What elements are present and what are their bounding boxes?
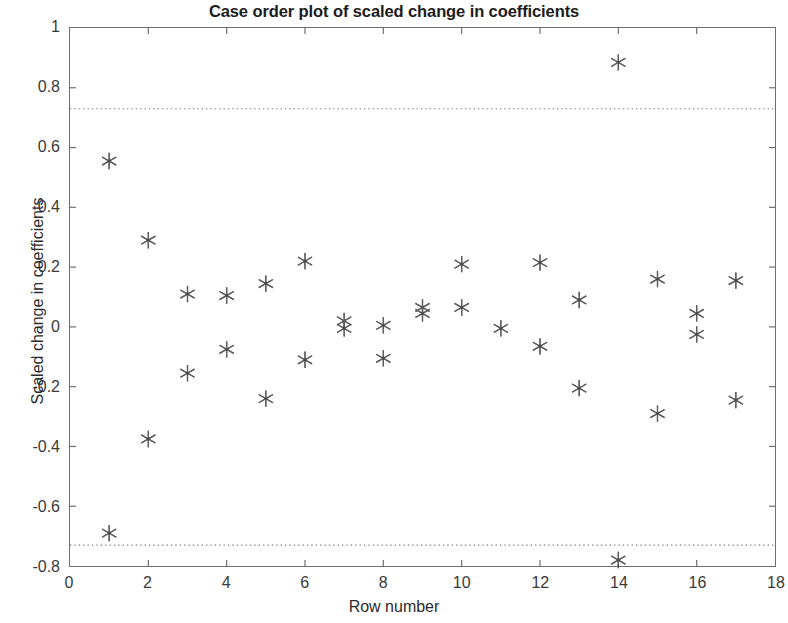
marker-center xyxy=(539,261,542,264)
marker-center xyxy=(734,279,737,282)
marker-center xyxy=(225,294,228,297)
data-point xyxy=(572,380,586,396)
marker-center xyxy=(147,437,150,440)
x-tick-label: 18 xyxy=(767,574,785,592)
x-axis-label: Row number xyxy=(0,598,788,616)
data-point xyxy=(376,350,390,366)
data-point xyxy=(650,405,664,421)
marker-center xyxy=(460,263,463,266)
data-point xyxy=(533,254,547,270)
data-point xyxy=(141,431,155,447)
data-point xyxy=(141,232,155,248)
data-point xyxy=(298,352,312,368)
y-axis-label: Scaled change in coefficients xyxy=(29,31,47,571)
page-title: Case order plot of scaled change in coef… xyxy=(0,2,788,21)
x-tick-label: 4 xyxy=(222,574,231,592)
x-tick-label: 12 xyxy=(531,574,549,592)
marker-center xyxy=(578,298,581,301)
marker-center xyxy=(147,239,150,242)
data-point xyxy=(455,256,469,272)
marker-center xyxy=(656,412,659,415)
marker-center xyxy=(421,312,424,315)
x-axis-tick-labels: 024681012141618 xyxy=(0,574,788,598)
scatter-plot-svg xyxy=(70,28,775,566)
data-point xyxy=(337,320,351,336)
data-point xyxy=(729,392,743,408)
data-point xyxy=(102,525,116,541)
x-tick-label: 10 xyxy=(453,574,471,592)
marker-center xyxy=(343,327,346,330)
marker-center xyxy=(108,532,111,535)
marker-center xyxy=(264,397,267,400)
marker-center xyxy=(108,160,111,163)
marker-center xyxy=(382,357,385,360)
data-point xyxy=(690,305,704,321)
data-point xyxy=(180,286,194,302)
data-point xyxy=(259,275,273,291)
data-point xyxy=(650,271,664,287)
x-tick-label: 16 xyxy=(689,574,707,592)
marker-center xyxy=(382,324,385,327)
data-point xyxy=(494,320,508,336)
x-tick-label: 6 xyxy=(300,574,309,592)
marker-center xyxy=(578,387,581,390)
marker-center xyxy=(656,278,659,281)
data-point xyxy=(102,153,116,169)
marker-center xyxy=(304,358,307,361)
data-point xyxy=(455,299,469,315)
data-point xyxy=(729,272,743,288)
marker-center xyxy=(695,312,698,315)
figure-canvas: Case order plot of scaled change in coef… xyxy=(0,0,788,623)
marker-center xyxy=(695,333,698,336)
x-tick-label: 0 xyxy=(65,574,74,592)
marker-center xyxy=(304,260,307,263)
data-point xyxy=(690,326,704,342)
data-point xyxy=(220,287,234,303)
marker-center xyxy=(499,327,502,330)
data-point xyxy=(376,317,390,333)
data-point xyxy=(572,292,586,308)
data-point xyxy=(533,338,547,354)
x-tick-label: 8 xyxy=(379,574,388,592)
data-point xyxy=(415,305,429,321)
data-point xyxy=(180,365,194,381)
data-point xyxy=(611,54,625,70)
marker-center xyxy=(186,293,189,296)
marker-center xyxy=(734,399,737,402)
x-tick-label: 2 xyxy=(143,574,152,592)
marker-center xyxy=(617,559,620,562)
marker-center xyxy=(264,282,267,285)
marker-center xyxy=(186,372,189,375)
data-point xyxy=(220,341,234,357)
marker-center xyxy=(617,61,620,64)
marker-center xyxy=(539,345,542,348)
data-point xyxy=(298,253,312,269)
data-point xyxy=(611,552,625,568)
marker-center xyxy=(225,348,228,351)
x-tick-label: 14 xyxy=(610,574,628,592)
plot-area xyxy=(69,27,776,567)
y-tick-label: 1 xyxy=(51,18,60,36)
marker-center xyxy=(460,306,463,309)
data-point xyxy=(259,390,273,406)
y-tick-label: 0 xyxy=(51,318,60,336)
